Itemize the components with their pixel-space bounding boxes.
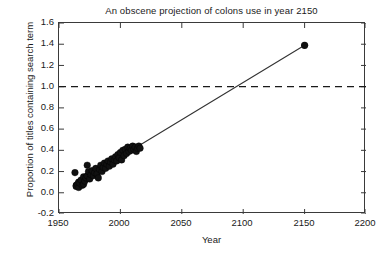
y-tick-label: 0.4 bbox=[24, 144, 54, 154]
x-tick-label: 2000 bbox=[97, 217, 141, 228]
plot-canvas bbox=[59, 23, 366, 214]
plot-area bbox=[58, 22, 365, 213]
y-tick-label: 0.0 bbox=[24, 187, 54, 197]
x-tick-label: 2200 bbox=[343, 217, 387, 228]
projection-trend-line bbox=[140, 45, 305, 145]
chart-title: An obscene projection of colons use in y… bbox=[58, 5, 365, 16]
x-axis-tick-labels: 1950 2000 2050 2100 2150 2200 bbox=[0, 217, 391, 231]
y-tick-label: 1.2 bbox=[24, 60, 54, 70]
projection-endpoint-marker bbox=[301, 42, 308, 49]
y-tick-label: 1.0 bbox=[24, 81, 54, 91]
x-tick-label: 2050 bbox=[159, 217, 203, 228]
y-tick-label: 1.4 bbox=[24, 38, 54, 48]
axis-ticks bbox=[59, 23, 366, 214]
x-tick-label: 2100 bbox=[220, 217, 264, 228]
scatter-points bbox=[72, 143, 144, 191]
y-tick-label: 0.8 bbox=[24, 102, 54, 112]
y-tick-label: 0.2 bbox=[24, 166, 54, 176]
x-tick-label: 1950 bbox=[36, 217, 80, 228]
x-tick-label: 2150 bbox=[282, 217, 326, 228]
chart-figure: An obscene projection of colons use in y… bbox=[0, 0, 391, 255]
x-axis-label: Year bbox=[58, 234, 365, 245]
y-tick-label: 0.6 bbox=[24, 123, 54, 133]
y-tick-label: 1.6 bbox=[24, 17, 54, 27]
